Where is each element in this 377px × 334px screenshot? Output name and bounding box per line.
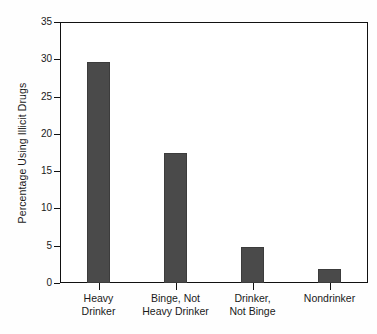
y-axis-tick-label: 5 — [30, 241, 52, 251]
y-axis-tick-label: 30 — [30, 54, 52, 64]
x-axis-category-label: Nondrinker — [291, 292, 368, 305]
bar — [87, 62, 110, 283]
y-axis-tick-label: 20 — [30, 129, 52, 139]
bar — [241, 247, 264, 283]
y-axis-tick-mark — [54, 22, 60, 23]
y-axis-tick-mark — [54, 208, 60, 209]
x-axis-tick-mark — [176, 283, 177, 290]
y-axis-tick-label: 25 — [30, 92, 52, 102]
chart-page: Percentage Using Illicit Drugs 051015202… — [0, 0, 377, 334]
x-axis-tick-mark — [253, 283, 254, 290]
y-axis-tick-label: 10 — [30, 203, 52, 213]
y-axis-tick-label: 0 — [30, 278, 52, 288]
x-axis-tick-mark — [330, 283, 331, 290]
y-axis-tick-mark — [54, 283, 60, 284]
x-axis-category-label: Heavy Drinker — [60, 292, 137, 317]
bar — [164, 153, 187, 284]
y-axis-tick-mark — [54, 171, 60, 172]
y-axis-tick-label: 15 — [30, 166, 52, 176]
y-axis-tick-group: 05101520253035 — [0, 0, 52, 334]
x-axis-tick-mark — [99, 283, 100, 290]
y-axis-tick-mark — [54, 134, 60, 135]
y-axis-tick-mark — [54, 59, 60, 60]
x-axis-category-label: Binge, Not Heavy Drinker — [137, 292, 214, 317]
bar-series — [60, 22, 368, 283]
y-axis-tick-mark — [54, 246, 60, 247]
bar — [318, 269, 341, 283]
y-axis-tick-label: 35 — [30, 17, 52, 27]
y-axis-tick-mark — [54, 97, 60, 98]
x-axis-category-label: Drinker, Not Binge — [214, 292, 291, 317]
